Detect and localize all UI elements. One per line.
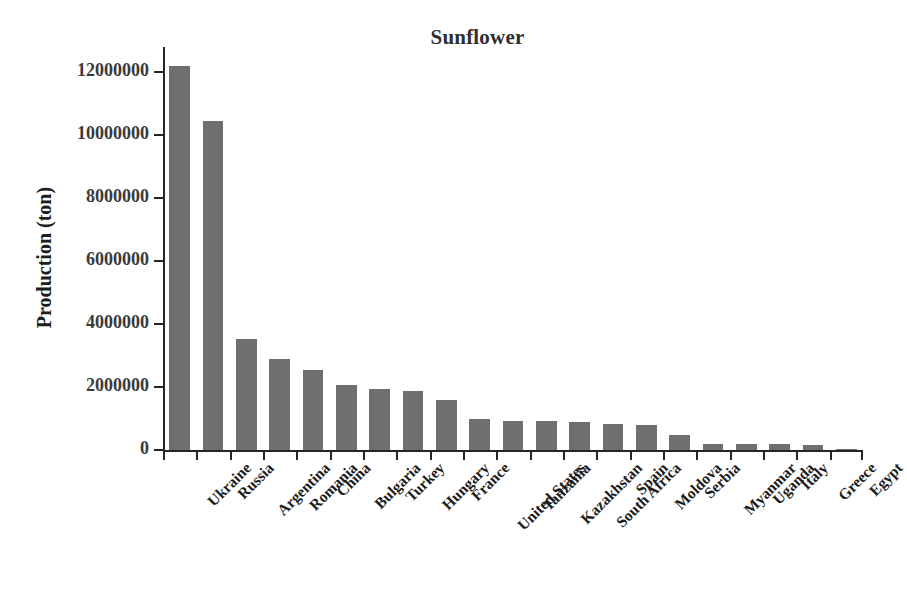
y-tick-mark [154, 134, 163, 136]
bar[interactable] [769, 444, 790, 450]
bar[interactable] [336, 385, 357, 450]
bar[interactable] [703, 444, 724, 450]
y-tick-mark [154, 449, 163, 451]
bar[interactable] [536, 421, 557, 450]
y-tick-label: 12000000 [77, 60, 149, 81]
bar[interactable] [436, 400, 457, 450]
bar[interactable] [569, 422, 590, 450]
x-axis-labels: UkraineRussiaArgentinaRomaniaChinaBulgar… [163, 459, 863, 599]
bar[interactable] [269, 359, 290, 450]
chart-title-text: Sunflower [431, 25, 525, 49]
y-tick-label: 2000000 [86, 375, 149, 396]
bar[interactable] [736, 444, 757, 450]
y-tick-label: 8000000 [86, 186, 149, 207]
bar[interactable] [636, 425, 657, 450]
bar[interactable] [603, 424, 624, 450]
bar[interactable] [236, 339, 257, 450]
y-tick-mark [154, 323, 163, 325]
y-tick-mark [154, 260, 163, 262]
x-tick-label: China [333, 459, 374, 500]
bar[interactable] [836, 449, 857, 450]
y-tick-label: 4000000 [86, 312, 149, 333]
bar[interactable] [169, 66, 190, 450]
bar[interactable] [203, 121, 224, 450]
y-axis-line [163, 47, 165, 452]
y-tick-label: 0 [140, 438, 149, 459]
y-tick-label: 6000000 [86, 249, 149, 270]
y-tick-label: 10000000 [77, 123, 149, 144]
x-axis-line [163, 450, 863, 452]
bar[interactable] [403, 391, 424, 450]
bar[interactable] [303, 370, 324, 450]
y-tick-mark [154, 386, 163, 388]
y-axis-title: Production (ton) [33, 128, 56, 388]
chart-figure: Sunflower Production (ton) 0200000040000… [0, 0, 907, 607]
bar[interactable] [669, 435, 690, 450]
bar[interactable] [803, 445, 824, 450]
bar[interactable] [469, 419, 490, 450]
bar[interactable] [503, 421, 524, 450]
bar[interactable] [369, 389, 390, 450]
plot-area: 0200000040000006000000800000010000000120… [163, 47, 863, 452]
y-tick-mark [154, 71, 163, 73]
y-tick-mark [154, 197, 163, 199]
